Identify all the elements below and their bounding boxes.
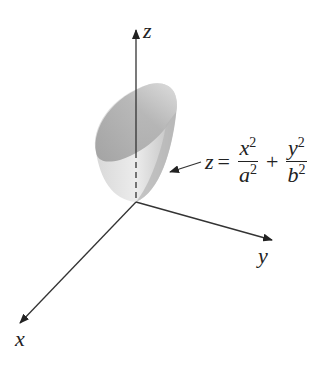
x-axis <box>20 202 136 323</box>
eq-plus: + <box>266 149 278 175</box>
eq-equals: = <box>218 149 230 175</box>
equation-pointer-arrow <box>170 162 201 172</box>
paraboloid-figure <box>0 0 325 372</box>
fraction-x: x2 a2 <box>237 137 259 186</box>
x-axis-label: x <box>15 328 25 350</box>
eq-lhs: z <box>205 149 214 175</box>
y-axis-label: y <box>258 245 268 267</box>
y-axis <box>136 202 272 240</box>
paraboloid-equation: z = x2 a2 + y2 b2 <box>205 137 310 186</box>
z-axis-label: z <box>143 20 152 42</box>
fraction-y: y2 b2 <box>285 137 307 186</box>
